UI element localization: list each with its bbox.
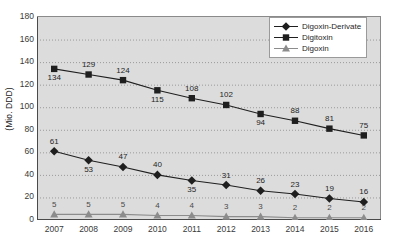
data-point-label: 108 — [185, 85, 198, 93]
data-point-label: 4 — [190, 202, 194, 210]
x-axis-tick-label: 2014 — [286, 225, 305, 234]
data-point-label: 31 — [222, 172, 231, 180]
y-axis-tick-label: 180 — [8, 12, 34, 21]
x-axis-tick-label: 2013 — [251, 225, 270, 234]
data-point-label: 88 — [291, 107, 300, 115]
y-axis-tick-label: 100 — [8, 102, 34, 111]
data-point-marker — [292, 118, 298, 124]
series-line — [54, 214, 364, 217]
data-point-marker — [360, 214, 368, 220]
x-axis-tick-labels: 2007200820092010201120122013201420152016 — [37, 225, 381, 241]
data-point-marker — [282, 22, 291, 31]
y-axis-tick-label: 120 — [8, 80, 34, 89]
data-point-label: 5 — [52, 201, 56, 209]
data-point-marker — [257, 111, 263, 117]
data-point-label: 4 — [155, 202, 159, 210]
data-point-label: 19 — [325, 185, 334, 193]
data-point-label: 3 — [258, 203, 262, 211]
data-point-label: 5 — [121, 201, 125, 209]
data-point-label: 2 — [293, 204, 297, 212]
data-point-marker — [326, 125, 332, 131]
data-point-label: 2 — [362, 204, 366, 212]
x-axis-tick-label: 2015 — [320, 225, 339, 234]
data-point-marker — [51, 66, 57, 72]
legend-marker-square-icon — [274, 32, 298, 43]
y-axis-tick-label: 40 — [8, 170, 34, 179]
data-point-marker — [85, 71, 91, 77]
y-axis-tick-label: 0 — [8, 215, 34, 224]
x-axis-tick-label: 2011 — [183, 225, 201, 234]
x-axis-tick-label: 2008 — [79, 225, 98, 234]
data-point-label: 124 — [116, 67, 129, 75]
data-point-label: 81 — [325, 115, 334, 123]
y-axis-tick-labels: 020406080100120140160180 — [8, 0, 34, 245]
data-point-marker — [325, 194, 334, 203]
data-point-label: 53 — [84, 166, 93, 174]
legend-item[interactable]: Digoxin — [274, 43, 361, 54]
data-point-label: 35 — [187, 186, 196, 194]
legend-label: Digoxin-Derivate — [298, 23, 361, 31]
y-axis-tick-label: 80 — [8, 125, 34, 134]
data-point-marker — [188, 176, 197, 185]
chart-legend: Digoxin-DerivateDigitoxinDigoxin — [269, 17, 367, 58]
data-point-label: 5 — [86, 201, 90, 209]
x-axis-tick-label: 2012 — [217, 225, 236, 234]
data-point-label: 26 — [256, 177, 265, 185]
data-point-marker — [84, 156, 93, 165]
y-axis-tick-label: 140 — [8, 57, 34, 66]
data-point-marker — [120, 77, 126, 83]
x-axis-tick-label: 2010 — [148, 225, 167, 234]
legend-item[interactable]: Digitoxin — [274, 32, 361, 43]
data-point-label: 61 — [50, 138, 59, 146]
legend-label: Digoxin — [298, 45, 329, 53]
data-point-marker — [223, 102, 229, 108]
data-point-label: 102 — [220, 91, 233, 99]
data-point-marker — [154, 87, 160, 93]
data-point-label: 94 — [256, 119, 265, 127]
data-point-label: 115 — [151, 96, 164, 104]
data-point-marker — [50, 147, 59, 156]
data-point-label: 16 — [359, 188, 368, 196]
data-point-marker — [291, 190, 300, 199]
data-point-label: 129 — [82, 61, 95, 69]
y-axis-tick-label: 160 — [8, 35, 34, 44]
y-axis-tick-label: 60 — [8, 147, 34, 156]
data-point-marker — [222, 181, 231, 190]
legend-marker-diamond-icon — [274, 21, 298, 32]
x-axis-tick-label: 2007 — [45, 225, 64, 234]
data-point-marker — [153, 171, 162, 180]
data-point-marker — [291, 214, 299, 220]
data-point-marker — [119, 163, 128, 172]
legend-item[interactable]: Digoxin-Derivate — [274, 21, 361, 32]
data-point-marker — [189, 95, 195, 101]
data-point-label: 2 — [327, 204, 331, 212]
data-point-label: 47 — [119, 153, 128, 161]
data-point-marker — [256, 186, 265, 195]
legend-label: Digitoxin — [298, 34, 333, 42]
x-axis-tick-label: 2009 — [114, 225, 133, 234]
data-point-label: 134 — [48, 74, 61, 82]
data-point-marker — [282, 45, 290, 52]
data-point-marker — [283, 34, 289, 40]
data-point-label: 40 — [153, 161, 162, 169]
chart-container: (Mio. DDD) 020406080100120140160180 6153… — [0, 0, 407, 245]
legend-marker-triangle-icon — [274, 43, 298, 54]
data-point-marker — [325, 214, 333, 220]
data-point-label: 75 — [359, 122, 368, 130]
series-line — [54, 151, 364, 202]
data-point-label: 23 — [291, 181, 300, 189]
data-point-label: 3 — [224, 203, 228, 211]
x-axis-tick-label: 2016 — [354, 225, 373, 234]
data-point-marker — [361, 132, 367, 138]
y-axis-tick-label: 20 — [8, 192, 34, 201]
series-line — [54, 69, 364, 136]
